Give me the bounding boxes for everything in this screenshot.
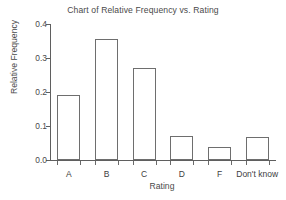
bar — [57, 95, 80, 160]
bar — [246, 137, 269, 160]
bar — [208, 147, 231, 160]
chart-title: Chart of Relative Frequency vs. Rating — [0, 5, 286, 15]
plot-area: 0.00.10.20.30.4 ABCDFDon't know — [50, 24, 276, 160]
bar — [133, 68, 156, 160]
x-tick-mark — [170, 161, 171, 165]
x-tick-label: F — [217, 169, 222, 179]
y-tick-label: 0.4 — [35, 19, 47, 29]
x-tick-mark — [95, 161, 96, 165]
x-tick-mark — [193, 161, 194, 165]
x-tick-mark — [156, 161, 157, 165]
x-tick-label: C — [141, 169, 147, 179]
x-tick-mark — [80, 161, 81, 165]
y-tick-label: 0.0 — [35, 155, 47, 165]
x-axis-line — [50, 160, 276, 161]
x-tick-label: B — [104, 169, 110, 179]
x-tick-mark — [57, 161, 58, 165]
x-tick-label: Don't know — [236, 169, 278, 179]
bar — [95, 39, 118, 160]
x-tick-mark — [246, 161, 247, 165]
x-tick-label: D — [179, 169, 185, 179]
y-axis-label: Relative Frequency — [9, 0, 19, 117]
bar — [170, 136, 193, 160]
x-tick-label: A — [66, 169, 72, 179]
x-tick-mark — [133, 161, 134, 165]
y-tick-label: 0.1 — [35, 121, 47, 131]
x-tick-mark — [231, 161, 232, 165]
y-tick-label: 0.3 — [35, 53, 47, 63]
x-tick-mark — [269, 161, 270, 165]
bar-chart-figure: Chart of Relative Frequency vs. Rating R… — [0, 0, 286, 200]
x-tick-mark — [208, 161, 209, 165]
y-axis-line — [50, 24, 51, 161]
y-tick-label: 0.2 — [35, 87, 47, 97]
x-axis-label: Rating — [48, 181, 276, 191]
x-tick-mark — [118, 161, 119, 165]
